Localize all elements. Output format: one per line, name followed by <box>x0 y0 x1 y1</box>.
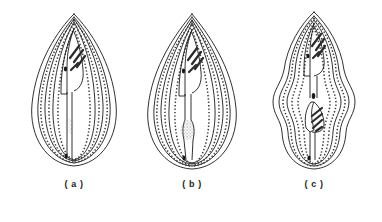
figure-plate: ( a ) <box>0 0 382 222</box>
grain-b-stipple-mass <box>181 120 196 140</box>
figure-panel-a: ( a ) <box>14 8 134 196</box>
grain-b-basal-dot <box>183 155 186 160</box>
panel-a-caption: ( a ) <box>14 178 134 190</box>
pollen-grain-b-svg <box>132 8 252 180</box>
grain-c-lower-stalk <box>310 132 315 160</box>
grain-a-stipple-patch <box>66 118 74 134</box>
grain-a-aperture-dot <box>64 67 67 72</box>
grain-outline-b <box>148 14 237 169</box>
pollen-grain-c-svg <box>254 8 374 180</box>
figure-panel-c: ( c ) <box>254 8 374 196</box>
grain-c-basal-dot <box>307 155 310 160</box>
panel-b-caption: ( b ) <box>132 178 252 190</box>
pollen-grain-b-drawing <box>132 8 252 180</box>
grain-a-basal-dot <box>65 153 68 158</box>
grain-c-upper-aperture-dot <box>306 54 309 58</box>
grain-b-aperture-dot <box>182 69 185 74</box>
pollen-grain-c-drawing <box>254 8 374 180</box>
figure-panel-b: ( b ) <box>132 8 252 196</box>
grain-c-mid-dot <box>312 93 316 99</box>
grain-c-mid-aperture-hatching <box>312 108 322 131</box>
grain-c-beaded-ribs <box>283 18 345 166</box>
pollen-grain-a-drawing <box>14 8 134 180</box>
panel-c-caption: ( c ) <box>254 178 374 190</box>
grain-outline-a <box>32 14 117 166</box>
pollen-grain-a-svg <box>14 8 134 180</box>
grain-b-inner-body <box>179 30 201 96</box>
